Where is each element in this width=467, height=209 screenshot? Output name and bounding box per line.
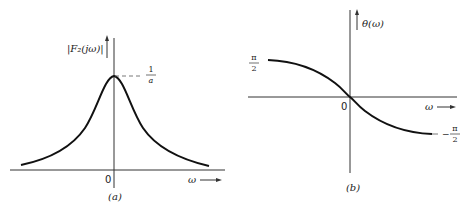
- figure-canvas: 1 a |F₂(jω)| 0 ω (a) θ(ω) π 2 − π: [0, 0, 467, 209]
- panel-a-peak-label-den: a: [149, 76, 154, 85]
- panel-b-caption: (b): [346, 182, 360, 193]
- panel-b-y-label: θ(ω): [362, 18, 384, 29]
- panel-b-bottom-label-sign: −: [442, 129, 450, 139]
- panel-b-top-label-num: π: [251, 53, 256, 62]
- panel-a-x-arrow-icon: [200, 178, 222, 182]
- panel-b-top-label-den: 2: [251, 64, 256, 73]
- panel-b-y-arrow-icon: [355, 9, 359, 30]
- panel-b-origin-label: 0: [341, 101, 347, 112]
- panel-a-origin-label: 0: [105, 174, 111, 185]
- panel-a-caption: (a): [108, 191, 122, 202]
- panel-a: 1 a |F₂(jω)| 0 ω (a): [10, 35, 225, 202]
- panel-b-bottom-label-num: π: [452, 124, 457, 133]
- panel-b: θ(ω) π 2 − π 2 0 ω (b): [248, 9, 460, 193]
- panel-a-magnitude-curve: [21, 76, 209, 166]
- panel-b-x-arrow-icon: [437, 105, 456, 109]
- panel-b-bottom-label-den: 2: [452, 135, 457, 144]
- panel-a-y-arrow-icon: [105, 35, 109, 58]
- panel-b-x-label: ω: [425, 101, 433, 112]
- panel-a-peak-label-num: 1: [148, 65, 153, 74]
- panel-a-x-label: ω: [188, 174, 196, 185]
- panel-a-y-label: |F₂(jω)|: [67, 43, 104, 55]
